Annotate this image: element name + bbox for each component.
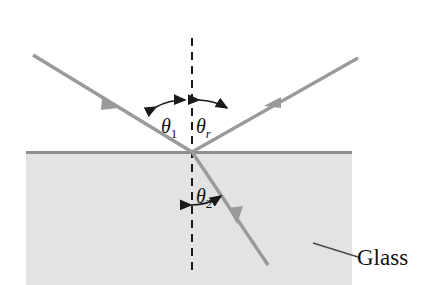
angle-reflection-arc [199,100,227,108]
angle-incidence-arc [156,100,185,107]
glass-region [26,153,352,285]
angle-reflection-label: θr [196,115,212,141]
glass-label: Glass [357,245,408,270]
incident-ray [33,55,192,152]
reflected-ray [192,58,358,152]
optics-refraction-diagram: θ1 θr θ2 Glass [0,0,437,285]
